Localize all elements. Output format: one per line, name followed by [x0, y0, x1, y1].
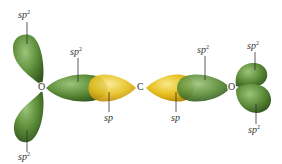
carbon-atom: C: [136, 82, 145, 92]
right-oxygen-atom: O: [227, 82, 236, 92]
label-left-o-top: sp2: [18, 9, 30, 20]
label-text: sp: [104, 112, 113, 123]
label-right-o-top: sp2: [247, 40, 259, 51]
label-text: sp: [247, 40, 256, 51]
label-text: sp: [248, 124, 257, 135]
right-o-lower-sp2-lobe: [236, 84, 271, 113]
label-superscript: 2: [206, 44, 209, 50]
label-superscript: 2: [27, 151, 30, 157]
label-superscript: 2: [256, 40, 259, 46]
label-left-o-bottom: sp2: [18, 151, 30, 162]
co2-hybrid-orbital-diagram: O C O sp2 sp2 sp2 sp sp sp2 sp2 sp2: [0, 0, 282, 164]
left-oxygen-atom: O: [37, 82, 46, 92]
label-right-o-bond: sp2: [197, 44, 209, 55]
left-o-lower-sp2-lobe: [14, 90, 44, 142]
label-text: sp: [171, 112, 180, 123]
label-left-c-bond: sp: [104, 113, 113, 123]
left-o-upper-sp2-lobe: [13, 35, 44, 86]
label-right-c-bond: sp: [171, 113, 180, 123]
label-text: sp: [197, 44, 206, 55]
label-text: sp: [18, 151, 27, 162]
right-o-bond-sp2-lobe: [177, 75, 230, 102]
left-c-bond-sp-lobe: [89, 75, 137, 102]
label-superscript: 2: [79, 46, 82, 52]
label-right-o-bottom: sp2: [248, 124, 260, 135]
label-text: sp: [18, 9, 27, 20]
label-left-o-bond: sp2: [70, 46, 82, 57]
label-text: sp: [70, 46, 79, 57]
label-superscript: 2: [27, 9, 30, 15]
label-superscript: 2: [257, 124, 260, 130]
